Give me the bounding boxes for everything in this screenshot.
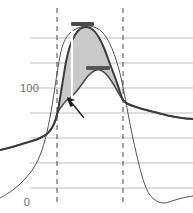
- y-axis-tick-0: 0: [24, 197, 30, 208]
- bar-marker-upper: [71, 22, 94, 26]
- y-axis-tick-100: 100: [20, 83, 39, 94]
- bar-marker-lower: [86, 66, 110, 70]
- chart-canvas: [0, 0, 193, 213]
- chart-figure: 100 0: [0, 0, 193, 213]
- gridlines-group: [30, 38, 193, 188]
- cursor-arrow: [67, 97, 84, 118]
